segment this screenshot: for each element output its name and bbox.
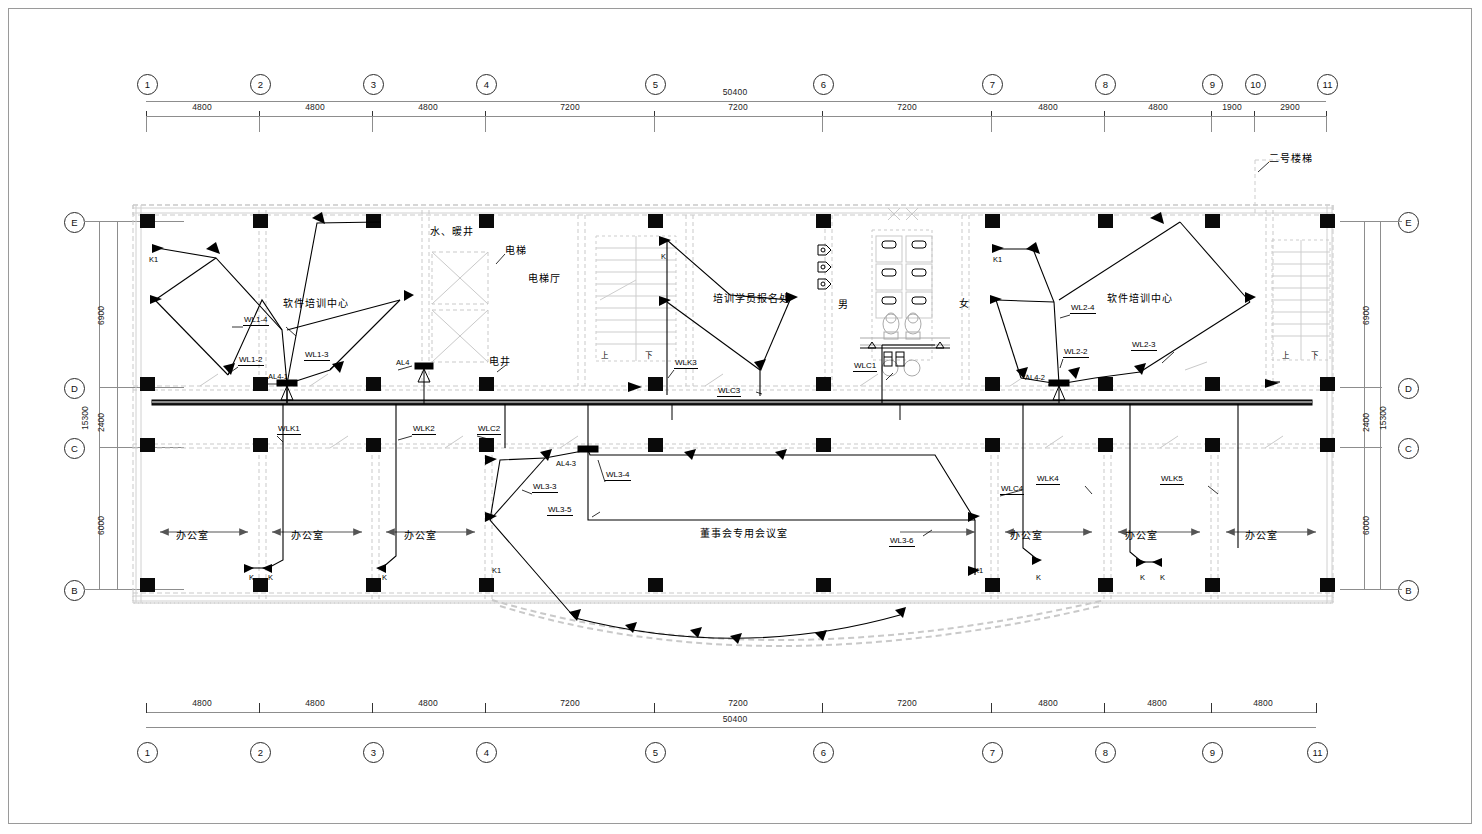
leader-line-layer	[0, 0, 1482, 834]
drawing-sheet: 50400 1 2 3 4 5 6 7 8 9 10 11	[0, 0, 1482, 834]
